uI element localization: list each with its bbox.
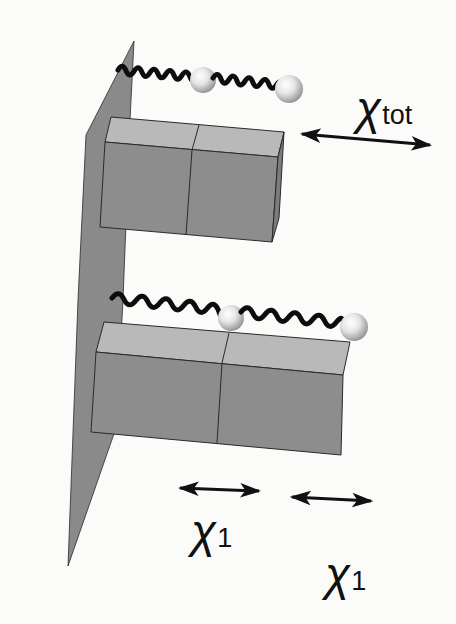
lower-bead-1 — [218, 305, 244, 331]
chi-1-arrow-left — [180, 488, 259, 491]
upper-assembly: χtot — [100, 66, 430, 242]
upper-block-pair — [100, 117, 284, 242]
diagram-canvas: χtot χ1 χ1 — [0, 0, 456, 624]
chi-1-arrow-right — [292, 497, 371, 501]
lower-block-pair — [91, 322, 350, 455]
chi-tot-label: χtot — [352, 82, 413, 134]
lower-assembly: χ1 χ1 — [91, 293, 371, 600]
upper-spring-2 — [213, 74, 285, 89]
lower-spring-1 — [111, 293, 230, 321]
upper-bead-2 — [275, 75, 303, 103]
chi-1-label-left: χ1 — [187, 505, 232, 557]
lower-spring-2 — [240, 307, 344, 328]
chi-tot-arrow — [302, 134, 430, 145]
lower-bead-2 — [340, 313, 368, 341]
chi-1-label-right: χ1 — [321, 548, 366, 600]
